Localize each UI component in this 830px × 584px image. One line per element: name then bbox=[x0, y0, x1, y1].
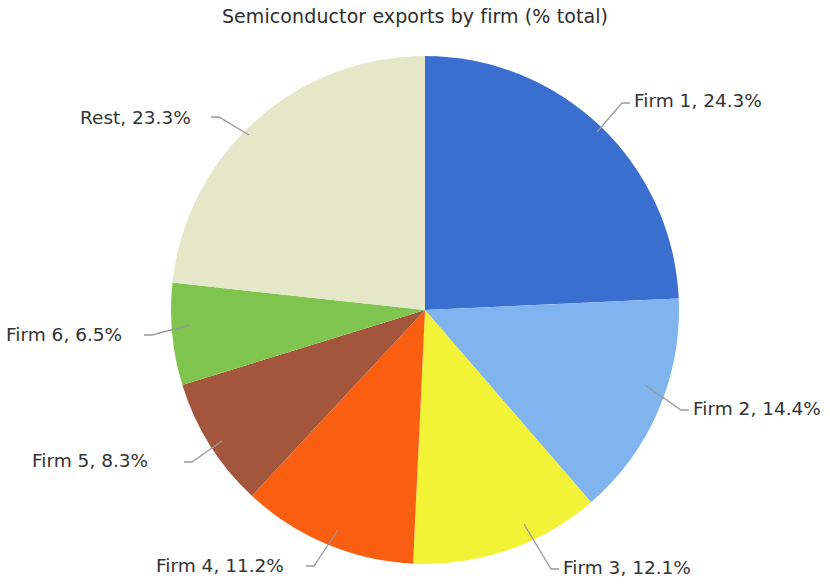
slice-label-firm-2: Firm 2, 14.4% bbox=[693, 398, 821, 419]
leader-line-firm-1 bbox=[597, 103, 630, 132]
pie-chart-figure: Semiconductor exports by firm (% total) … bbox=[0, 0, 830, 584]
slice-label-rest: Rest, 23.3% bbox=[80, 107, 191, 128]
pie-slices-group bbox=[171, 56, 679, 564]
slice-label-firm-3: Firm 3, 12.1% bbox=[563, 557, 691, 578]
slice-label-firm-6: Firm 6, 6.5% bbox=[6, 324, 122, 345]
pie-chart-svg: Firm 1, 24.3%Firm 2, 14.4%Firm 3, 12.1%F… bbox=[0, 0, 830, 584]
pie-slice-rest[interactable] bbox=[172, 56, 425, 310]
leader-line-rest bbox=[211, 117, 249, 135]
slice-label-firm-1: Firm 1, 24.3% bbox=[634, 90, 762, 111]
slice-label-firm-5: Firm 5, 8.3% bbox=[32, 450, 148, 471]
slice-label-firm-4: Firm 4, 11.2% bbox=[156, 555, 284, 576]
